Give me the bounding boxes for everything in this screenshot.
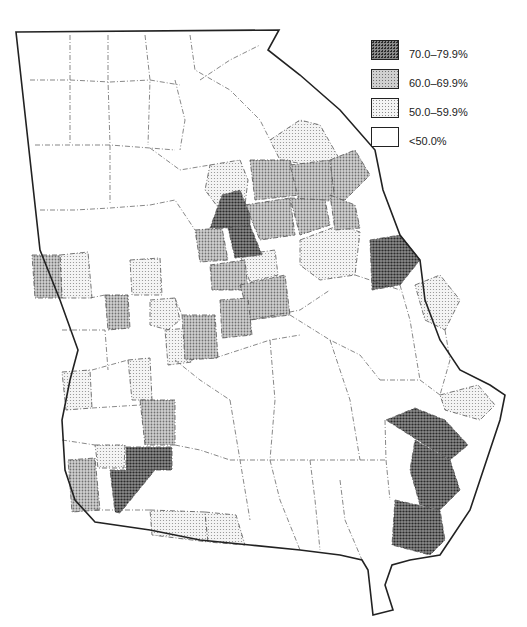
county bbox=[150, 510, 208, 542]
legend-swatch-light-dots bbox=[371, 98, 399, 118]
legend-item-below-50: <50.0% bbox=[371, 127, 521, 149]
county bbox=[182, 315, 218, 360]
legend-swatch-medium-dots bbox=[371, 69, 399, 89]
county bbox=[62, 370, 92, 410]
legend-label: 70.0–79.9% bbox=[409, 48, 468, 60]
county bbox=[68, 458, 100, 512]
legend-item-50-59: 50.0–59.9% bbox=[371, 98, 521, 120]
legend-label: <50.0% bbox=[409, 135, 447, 147]
county bbox=[220, 298, 252, 338]
county bbox=[128, 358, 152, 400]
county bbox=[195, 228, 228, 262]
legend-label: 50.0–59.9% bbox=[409, 106, 468, 118]
county bbox=[126, 447, 172, 470]
legend-swatch-dense-dots bbox=[371, 40, 399, 60]
county bbox=[60, 252, 92, 298]
county bbox=[95, 445, 125, 468]
legend-swatch-blank bbox=[371, 127, 399, 147]
county bbox=[140, 400, 175, 445]
legend-item-60-69: 60.0–69.9% bbox=[371, 69, 521, 91]
georgia-county-map bbox=[0, 0, 527, 627]
county bbox=[105, 295, 130, 330]
legend-item-70-79: 70.0–79.9% bbox=[371, 40, 521, 62]
legend-label: 60.0–69.9% bbox=[409, 77, 468, 89]
county bbox=[130, 258, 162, 295]
county bbox=[32, 255, 62, 298]
